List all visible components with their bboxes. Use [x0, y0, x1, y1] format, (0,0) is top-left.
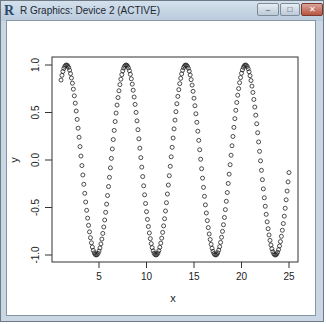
data-point — [107, 175, 111, 179]
data-point — [114, 111, 118, 115]
data-point — [209, 242, 213, 246]
data-point — [267, 233, 271, 237]
data-point — [165, 192, 169, 196]
data-point — [221, 223, 225, 227]
data-point — [128, 72, 132, 76]
data-point — [60, 73, 64, 77]
data-point — [173, 118, 177, 122]
data-point — [268, 238, 272, 242]
data-point — [100, 237, 104, 241]
data-point — [249, 79, 253, 83]
x-axis: 510152025 — [96, 262, 295, 282]
data-point — [199, 157, 203, 161]
data-point — [81, 173, 85, 177]
data-point — [202, 194, 206, 198]
data-point — [206, 226, 210, 230]
data-point — [226, 181, 230, 185]
data-point — [195, 120, 199, 124]
data-point — [264, 212, 268, 216]
data-point — [222, 215, 226, 219]
data-point — [192, 96, 196, 100]
data-point — [235, 100, 239, 104]
data-point — [148, 237, 152, 241]
data-point — [161, 230, 165, 234]
data-point — [287, 171, 291, 175]
data-point — [146, 224, 150, 228]
data-point — [138, 146, 142, 150]
data-point — [228, 163, 232, 167]
y-tick-label: -0.5 — [30, 198, 41, 216]
y-tick-label: -1.0 — [30, 246, 41, 264]
data-point — [132, 95, 136, 99]
data-point — [80, 164, 84, 168]
data-point — [133, 102, 137, 106]
data-point — [230, 144, 234, 148]
data-point — [178, 82, 182, 86]
plot-frame — [52, 57, 298, 262]
data-point — [119, 77, 123, 81]
data-point — [254, 113, 258, 117]
x-tick-label: 25 — [283, 271, 295, 282]
data-point — [117, 89, 121, 93]
data-point — [162, 224, 166, 228]
data-point — [115, 103, 119, 107]
data-point — [59, 78, 63, 82]
data-point — [85, 208, 89, 212]
data-point — [72, 94, 76, 98]
data-point — [69, 76, 73, 80]
data-point — [77, 135, 81, 139]
data-point — [116, 96, 120, 100]
data-point — [286, 180, 290, 184]
data-point — [223, 208, 227, 212]
data-point — [224, 199, 228, 203]
data-point — [234, 108, 238, 112]
data-point — [87, 223, 91, 227]
data-point — [167, 174, 171, 178]
data-point — [207, 232, 211, 236]
data-point — [175, 102, 179, 106]
data-point — [262, 196, 266, 200]
data-point — [88, 230, 92, 234]
data-point — [160, 236, 164, 240]
data-point — [266, 227, 270, 231]
data-point — [109, 156, 113, 160]
data-point — [205, 219, 209, 223]
data-point — [164, 201, 168, 205]
data-point — [250, 84, 254, 88]
data-point — [78, 145, 82, 149]
data-point — [136, 128, 140, 132]
data-point — [169, 155, 173, 159]
data-point — [137, 137, 141, 141]
data-point — [108, 166, 112, 170]
data-point — [239, 76, 243, 80]
data-point — [113, 120, 117, 124]
data-point — [102, 225, 106, 229]
data-point — [145, 217, 149, 221]
data-point — [188, 73, 192, 77]
data-point — [189, 78, 193, 82]
data-point — [130, 82, 134, 86]
data-point — [134, 110, 138, 114]
data-point — [135, 119, 139, 123]
scatter-plot: -1.0-0.50.00.51.0 510152025 x y — [0, 0, 326, 324]
data-point — [229, 153, 233, 157]
x-tick-label: 10 — [141, 271, 153, 282]
data-point — [105, 202, 109, 206]
data-point — [193, 104, 197, 108]
data-point — [201, 176, 205, 180]
data-point — [220, 235, 224, 239]
data-point — [283, 206, 287, 210]
data-point — [237, 87, 241, 91]
data-point — [103, 218, 107, 222]
data-point — [110, 147, 114, 151]
y-axis: -1.0-0.50.00.51.0 — [30, 58, 52, 264]
data-point — [140, 165, 144, 169]
data-point — [258, 149, 262, 153]
data-point — [170, 145, 174, 149]
data-point — [198, 148, 202, 152]
data-point — [144, 201, 148, 205]
data-point — [82, 182, 86, 186]
data-point — [231, 134, 235, 138]
data-point — [238, 81, 242, 85]
data-point — [261, 187, 265, 191]
